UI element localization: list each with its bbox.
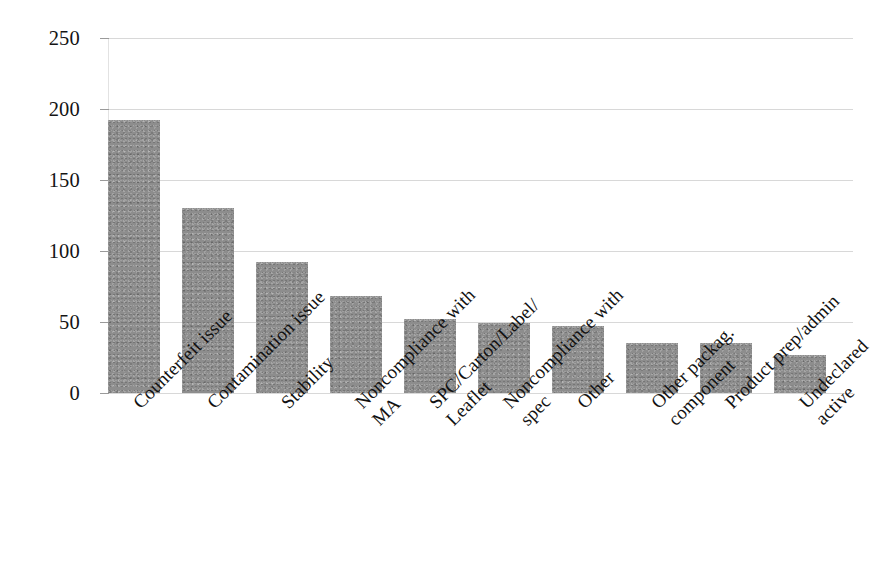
y-tick-label: 200 bbox=[49, 99, 80, 120]
bar-chart: 050100150200250 Counterfeit issueContami… bbox=[0, 0, 895, 577]
y-tick-label: 0 bbox=[70, 383, 80, 404]
x-axis-labels: Counterfeit issueContamination issueStab… bbox=[108, 397, 895, 577]
y-tick-label: 150 bbox=[49, 170, 80, 191]
y-tick-label: 50 bbox=[59, 312, 80, 333]
y-tick-label: 100 bbox=[49, 241, 80, 262]
bar bbox=[108, 120, 160, 393]
y-tick-label: 250 bbox=[49, 28, 80, 49]
y-tick-mark bbox=[100, 393, 109, 394]
